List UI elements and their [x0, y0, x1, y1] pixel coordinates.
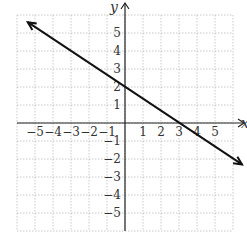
svg-text:−5: −5 [103, 206, 121, 220]
svg-text:−5: −5 [26, 125, 44, 139]
svg-text:−2: −2 [80, 125, 98, 139]
svg-text:1: 1 [139, 125, 147, 139]
svg-text:2: 2 [157, 125, 165, 139]
svg-text:−4: −4 [103, 188, 121, 202]
svg-text:−2: −2 [103, 152, 121, 166]
svg-text:3: 3 [113, 62, 121, 76]
svg-text:−3: −3 [103, 170, 121, 184]
svg-text:4: 4 [113, 44, 121, 58]
svg-text:5: 5 [211, 125, 219, 139]
svg-text:1: 1 [113, 98, 121, 112]
data-line [28, 22, 242, 164]
svg-text:−1: −1 [103, 134, 121, 148]
coordinate-plane: −5−4−3−2−11234554321−1−2−3−4−5 x y [0, 0, 247, 239]
svg-text:5: 5 [113, 26, 121, 40]
x-axis-label: x [241, 115, 247, 131]
y-axis-label: y [109, 0, 119, 15]
svg-text:3: 3 [175, 125, 183, 139]
svg-text:−3: −3 [62, 125, 80, 139]
svg-text:−4: −4 [44, 125, 62, 139]
